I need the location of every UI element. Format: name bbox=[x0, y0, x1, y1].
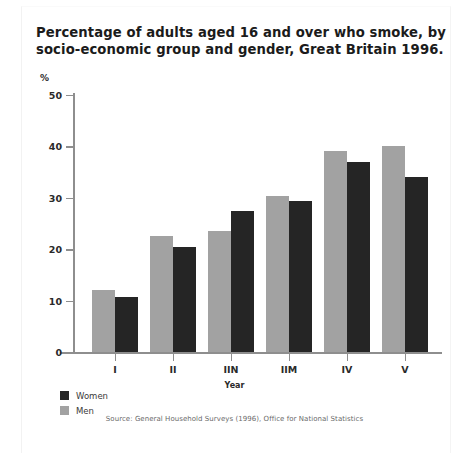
x-axis-line bbox=[60, 352, 442, 354]
x-tick-label-i: I bbox=[113, 364, 117, 375]
y-tick-mark bbox=[66, 301, 74, 302]
bar-women-v bbox=[405, 177, 428, 352]
legend-label-men: Men bbox=[76, 406, 94, 416]
y-tick-label: 20 bbox=[32, 244, 62, 255]
chart-title-line-2: socio-economic group and gender, Great B… bbox=[36, 41, 436, 58]
bar-women-iim bbox=[289, 201, 312, 352]
x-tick-label-iv: IV bbox=[342, 364, 353, 375]
bar-men-ii bbox=[150, 236, 173, 352]
x-tick-mark bbox=[289, 354, 290, 361]
y-tick-label: 10 bbox=[32, 295, 62, 306]
x-tick-label-iim: IIM bbox=[281, 364, 298, 375]
source-note: Source: General Household Surveys (1996)… bbox=[0, 415, 469, 423]
bar-men-iim bbox=[266, 196, 289, 352]
y-tick-mark bbox=[66, 198, 74, 199]
y-axis-labels: 01020304050 bbox=[24, 0, 62, 459]
legend-label-women: Women bbox=[76, 391, 108, 401]
x-tick-mark bbox=[405, 354, 406, 361]
x-tick-label-ii: II bbox=[169, 364, 176, 375]
legend-swatch-men-icon bbox=[60, 406, 69, 415]
x-tick-mark bbox=[173, 354, 174, 361]
y-tick-mark bbox=[66, 146, 74, 147]
bar-women-iin bbox=[231, 211, 254, 352]
y-tick-label: 50 bbox=[32, 90, 62, 101]
x-tick-label-iin: IIN bbox=[223, 364, 238, 375]
bar-men-i bbox=[92, 290, 115, 352]
x-tick-label-v: V bbox=[401, 364, 408, 375]
y-tick-label: 0 bbox=[32, 347, 62, 358]
bar-women-i bbox=[115, 297, 138, 353]
y-tick-label: 40 bbox=[32, 141, 62, 152]
x-tick-mark bbox=[347, 354, 348, 361]
plot-area bbox=[74, 95, 430, 352]
bar-women-ii bbox=[173, 247, 196, 352]
x-tick-mark bbox=[231, 354, 232, 361]
y-tick-mark bbox=[66, 95, 74, 96]
bar-men-v bbox=[382, 146, 405, 352]
y-tick-mark bbox=[66, 249, 74, 250]
legend-swatch-women-icon bbox=[60, 391, 69, 400]
chart-figure: Percentage of adults aged 16 and over wh… bbox=[0, 0, 469, 459]
chart-title: Percentage of adults aged 16 and over wh… bbox=[36, 24, 436, 58]
bar-men-iin bbox=[208, 231, 231, 352]
bar-women-iv bbox=[347, 162, 370, 352]
legend-item-women: Women bbox=[60, 389, 108, 402]
bar-men-iv bbox=[324, 151, 347, 352]
y-tick-label: 30 bbox=[32, 192, 62, 203]
chart-title-line-1: Percentage of adults aged 16 and over wh… bbox=[36, 24, 436, 41]
x-tick-mark bbox=[115, 354, 116, 361]
